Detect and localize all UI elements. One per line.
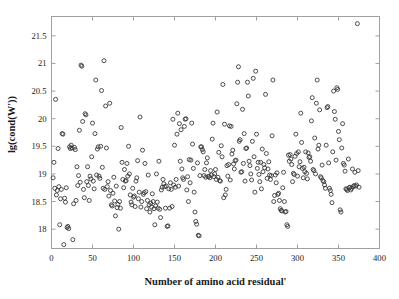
y-tick-label: 18	[38, 224, 47, 234]
data-point	[81, 119, 85, 123]
data-point	[99, 144, 103, 148]
data-point	[159, 216, 163, 220]
data-point	[255, 166, 259, 170]
data-point	[228, 178, 232, 182]
data-point	[334, 158, 338, 162]
data-point	[332, 89, 336, 93]
data-point	[247, 159, 251, 163]
data-point	[277, 191, 281, 195]
data-point	[298, 160, 302, 164]
data-point	[290, 163, 294, 167]
data-point	[272, 200, 276, 204]
data-point	[230, 152, 234, 156]
data-point	[259, 187, 263, 191]
data-point	[257, 172, 261, 176]
data-point	[270, 134, 274, 138]
data-point	[294, 132, 298, 136]
data-point	[86, 165, 90, 169]
data-point	[117, 227, 121, 231]
data-points	[51, 22, 361, 247]
data-point	[315, 78, 319, 82]
data-point	[92, 187, 96, 191]
data-point	[154, 172, 158, 176]
data-point	[100, 89, 104, 93]
data-point	[333, 117, 337, 121]
data-point	[310, 96, 314, 100]
data-point	[296, 174, 300, 178]
y-axis-label-wrap: lg(cond(W'))	[2, 0, 22, 248]
data-point	[236, 80, 240, 84]
data-point	[85, 180, 89, 184]
data-point	[205, 156, 209, 160]
data-point	[261, 170, 265, 174]
data-point	[332, 110, 336, 114]
data-point	[314, 172, 318, 176]
data-point	[125, 161, 129, 165]
data-point	[145, 207, 149, 211]
data-point	[220, 155, 224, 159]
data-point	[78, 180, 82, 184]
data-point	[191, 166, 195, 170]
data-point	[281, 186, 285, 190]
data-point	[91, 121, 95, 125]
data-point	[258, 180, 262, 184]
data-point	[330, 201, 334, 205]
data-point	[143, 161, 147, 165]
data-point	[106, 180, 110, 184]
data-point	[111, 191, 115, 195]
x-tick-label: 50	[88, 253, 97, 263]
data-point	[54, 97, 58, 101]
data-point	[203, 168, 207, 172]
data-point	[340, 146, 344, 150]
data-point	[232, 167, 236, 171]
data-point	[331, 150, 335, 154]
data-point	[271, 78, 275, 82]
data-point	[64, 186, 68, 190]
y-tick-label: 19.5	[31, 141, 46, 151]
data-point	[313, 136, 317, 140]
data-point	[169, 187, 173, 191]
data-point	[236, 65, 240, 69]
data-point	[62, 243, 66, 247]
data-point	[245, 80, 249, 84]
data-point	[243, 179, 247, 183]
data-point	[185, 188, 189, 192]
y-tick-label: 20	[38, 114, 47, 124]
data-point	[356, 169, 360, 173]
data-point	[56, 147, 60, 151]
data-point	[249, 172, 253, 176]
data-point	[77, 128, 81, 132]
data-point	[305, 177, 309, 181]
data-point	[113, 199, 117, 203]
x-tick-label: 400	[373, 253, 386, 263]
data-point	[157, 159, 161, 163]
data-point	[326, 105, 330, 109]
x-axis-label: Number of amino acid residual'	[51, 276, 380, 287]
data-point	[173, 143, 177, 147]
data-point	[175, 132, 179, 136]
data-point	[210, 137, 214, 141]
data-point	[341, 122, 345, 126]
data-point	[215, 110, 219, 114]
data-point	[74, 198, 78, 202]
data-point	[317, 143, 321, 147]
data-point	[54, 193, 58, 197]
data-point	[343, 169, 347, 173]
data-point	[108, 101, 112, 105]
data-point	[246, 94, 250, 98]
data-point	[251, 76, 255, 80]
data-point	[104, 146, 108, 150]
data-point	[177, 122, 181, 126]
x-tick-label: 200	[209, 253, 222, 263]
data-point	[192, 190, 196, 194]
data-point	[304, 150, 308, 154]
data-point	[250, 178, 254, 182]
data-point	[299, 111, 303, 115]
data-point	[282, 170, 286, 174]
x-tick-label: 300	[291, 253, 304, 263]
data-point	[186, 175, 190, 179]
axis-box	[52, 17, 380, 249]
data-point	[86, 184, 90, 188]
data-point	[107, 194, 111, 198]
data-point	[209, 169, 213, 173]
